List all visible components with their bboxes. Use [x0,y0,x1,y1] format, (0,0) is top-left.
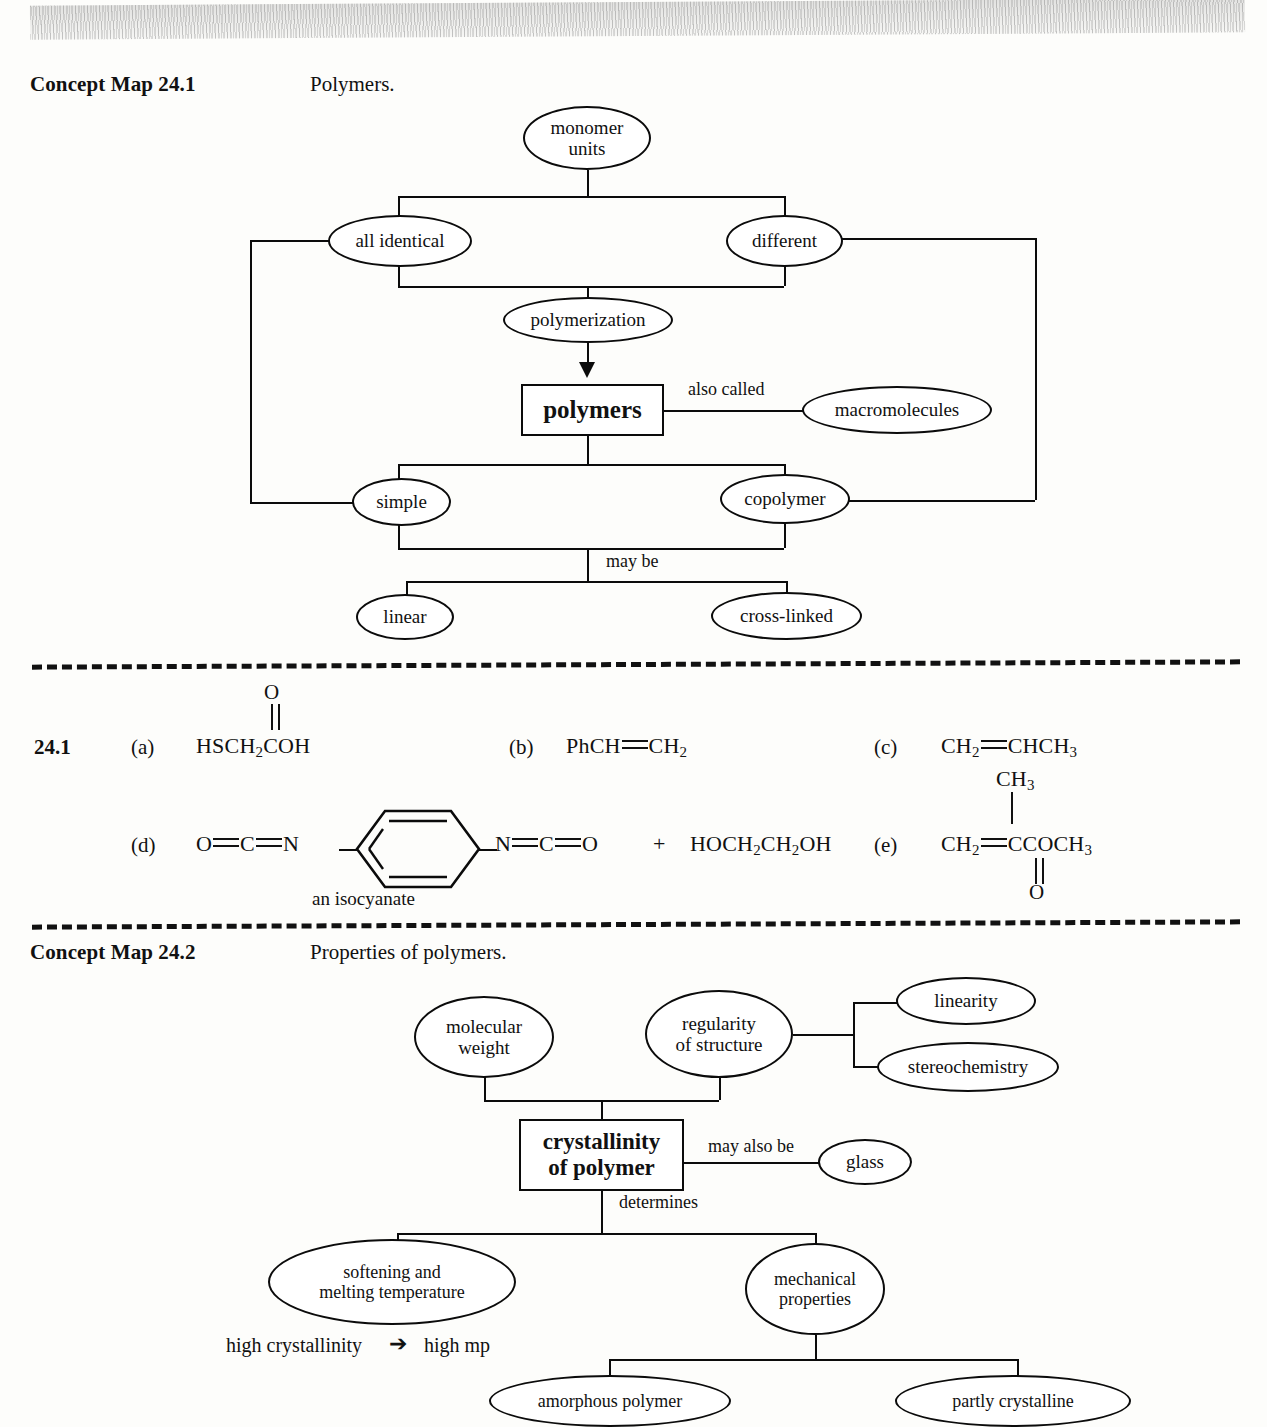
node-mechanical-properties[interactable]: mechanical properties [745,1243,885,1335]
node-polymerization[interactable]: polymerization [503,297,673,343]
node-different[interactable]: different [726,215,843,267]
node-linear[interactable]: linear [356,594,454,640]
node-partly-crystalline[interactable]: partly crystalline [895,1375,1131,1427]
edge-label-may-be: may be [602,551,662,572]
node-simple[interactable]: simple [352,478,451,526]
connector-determines-split [397,1233,815,1235]
node-copolymer[interactable]: copolymer [720,474,850,524]
item-d-right-isocyanate: NCO [495,831,598,857]
item-c-formula: CH2CHCH3 [941,733,1077,761]
item-b-label: (b) [509,735,534,760]
node-crystallinity-box[interactable]: crystallinity of polymer [519,1119,684,1191]
node-amorphous-polymer[interactable]: amorphous polymer [489,1375,731,1427]
annotation-high-crystallinity: high crystallinity [226,1334,362,1357]
bond-ring-right [479,849,497,851]
node-polymers-box[interactable]: polymers [521,384,664,436]
connector-polymers-down [587,436,589,464]
connector-determines-vertical [601,1191,603,1233]
item-d-plus: + [653,831,666,857]
item-a-label: (a) [131,735,154,760]
connector-regularity-branch [853,1002,855,1066]
node-macromolecules[interactable]: macromolecules [802,386,992,434]
connector-may-be-vertical [587,548,589,581]
connector-left-loop-top [250,240,330,242]
problem-number: 24.1 [34,735,71,760]
connector-copolymer-down [784,521,786,548]
item-c-label: (c) [874,735,897,760]
concept-map-2-title: Properties of polymers. [310,940,507,965]
edge-label-also-called: also called [684,379,768,400]
arrowhead-to-polymers [579,362,595,378]
item-a-double-bond [271,704,280,730]
concept-map-1-heading: Concept Map 24.1 [30,72,196,97]
connector-monomer-down [587,170,589,196]
connector-right-loop-bottom [848,500,1035,502]
annotation-high-mp: high mp [424,1334,490,1357]
section-divider-1 [32,659,1240,669]
textbook-page: Concept Map 24.1 Polymers. monomer units… [0,0,1267,1427]
connector-left-loop-bottom [250,502,354,504]
edge-label-determines: determines [615,1192,702,1213]
connector-split-mid [398,464,784,466]
connector-mechanical-split [609,1359,1017,1361]
connector-regularity-right [793,1034,853,1036]
connector-crystallinity-glass [684,1162,820,1164]
node-linearity[interactable]: linearity [896,977,1036,1025]
connector-to-crystallinity [601,1100,603,1120]
connector-right-loop-vertical [1035,238,1037,500]
node-cross-linked[interactable]: cross-linked [711,592,862,640]
connector-left-loop-vertical [250,240,252,502]
node-monomer-units[interactable]: monomer units [523,106,651,170]
connector-mechanical-down [815,1335,817,1359]
item-a-formula: HSCH2COH [196,733,310,761]
connector-to-linearity [853,1002,901,1004]
item-d-label: (d) [131,833,156,858]
node-regularity-of-structure[interactable]: regularity of structure [645,990,793,1078]
node-softening-melting[interactable]: softening and melting temperature [268,1239,516,1325]
item-b-formula: PhCHCH2 [566,733,687,761]
connector-split-bottom [406,581,786,583]
node-all-identical[interactable]: all identical [328,215,472,267]
item-e-methyl-bond [1011,792,1013,824]
connector-right-loop-top [841,238,1035,240]
section-divider-2 [32,919,1240,929]
node-stereochemistry[interactable]: stereochemistry [877,1042,1059,1092]
connector-polymers-macromolecules [664,410,804,412]
item-e-label: (e) [874,833,897,858]
benzene-ring-icon [353,805,483,893]
item-e-carbonyl-oxygen: O [1029,880,1044,905]
item-e-methyl: CH3 [996,766,1035,794]
node-glass[interactable]: glass [818,1139,912,1185]
connector-split-top [398,196,784,198]
connector-merge-bar-2 [398,548,784,550]
item-d-left-isocyanate: OCN [196,831,299,857]
edge-label-may-also-be: may also be [704,1136,798,1157]
item-d-diol: HOCH2CH2OH [690,831,832,859]
item-d-caption: an isocyanate [312,888,415,910]
concept-map-1-title: Polymers. [310,72,395,97]
scanner-noise-band [30,0,1245,40]
connector-merge-bar [398,286,784,288]
node-molecular-weight[interactable]: molecular weight [414,996,554,1078]
arrow-right-icon: ➔ [389,1331,407,1357]
concept-map-2-heading: Concept Map 24.2 [30,940,196,965]
item-e-formula: CH2CCOCH3 [941,831,1092,859]
bond-ring-left [339,849,357,851]
item-a-carbonyl-oxygen: O [264,680,279,705]
